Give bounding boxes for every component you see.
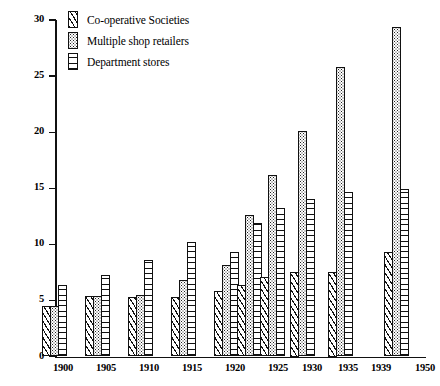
y-tick-label-20: 20 — [14, 125, 44, 136]
bar-department-stores-1915 — [187, 242, 196, 356]
bar-multiple-shop-retailers-1925 — [245, 215, 254, 356]
x-tick-label-1950: 1950 — [402, 362, 440, 373]
bar-co-operative-societies-1915 — [171, 297, 180, 356]
bar-department-stores-1939 — [344, 192, 353, 357]
y-tick-15 — [49, 188, 56, 189]
bar-co-operative-societies-1920 — [214, 291, 223, 356]
bar-multiple-shop-retailers-1935 — [298, 131, 307, 356]
x-tick-label-1915: 1915 — [169, 362, 215, 373]
bar-department-stores-1900 — [58, 285, 67, 357]
bar-department-stores-1935 — [306, 199, 315, 356]
x-tick-label-1900: 1900 — [40, 362, 86, 373]
legend-item-department-stores: Department stores — [68, 51, 189, 72]
y-tick-label-25: 25 — [14, 69, 44, 80]
legend-item-co-operative-societies: Co-operative Societies — [68, 9, 189, 30]
x-tick-label-1920: 1920 — [212, 362, 258, 373]
bar-department-stores-1950 — [400, 189, 409, 356]
bar-multiple-shop-retailers-1930 — [268, 175, 277, 357]
legend-label-co-operative-societies: Co-operative Societies — [87, 14, 189, 26]
bar-multiple-shop-retailers-1900 — [50, 306, 59, 356]
x-axis-line — [55, 357, 426, 359]
legend-swatch-co-operative-societies — [68, 11, 78, 28]
legend-label-department-stores: Department stores — [87, 56, 169, 68]
bar-co-operative-societies-1935 — [290, 272, 299, 356]
chart-legend: Co-operative Societies Multiple shop ret… — [68, 9, 189, 72]
y-tick-25 — [49, 75, 56, 76]
legend-item-multiple-shop-retailers: Multiple shop retailers — [68, 30, 189, 51]
bar-co-operative-societies-1939 — [328, 272, 337, 356]
y-tick-20 — [49, 132, 56, 133]
bar-department-stores-1930 — [276, 208, 285, 356]
legend-swatch-multiple-shop-retailers — [68, 32, 78, 49]
x-tick-label-1910: 1910 — [126, 362, 172, 373]
y-tick-label-0: 0 — [14, 350, 44, 361]
legend-label-multiple-shop-retailers: Multiple shop retailers — [87, 35, 189, 47]
bar-multiple-shop-retailers-1910 — [136, 295, 145, 357]
bar-co-operative-societies-1950 — [384, 252, 393, 356]
x-tick-label-1905: 1905 — [83, 362, 129, 373]
y-tick-10 — [49, 244, 56, 245]
legend-swatch-department-stores — [68, 53, 78, 70]
bar-department-stores-1905 — [101, 275, 110, 357]
y-tick-label-10: 10 — [14, 237, 44, 248]
x-tick-label-1939: 1939 — [358, 362, 404, 373]
bar-multiple-shop-retailers-1939 — [336, 67, 345, 356]
y-tick-5 — [49, 300, 56, 301]
bar-co-operative-societies-1930 — [260, 277, 269, 357]
bar-multiple-shop-retailers-1920 — [222, 265, 231, 357]
bar-department-stores-1910 — [144, 260, 153, 356]
y-tick-30 — [49, 19, 56, 20]
bar-co-operative-societies-1900 — [42, 306, 51, 356]
bar-multiple-shop-retailers-1905 — [93, 296, 102, 357]
bar-co-operative-societies-1905 — [85, 296, 94, 357]
bar-multiple-shop-retailers-1950 — [392, 27, 401, 357]
bar-co-operative-societies-1910 — [128, 297, 137, 356]
y-tick-label-5: 5 — [14, 293, 44, 304]
bar-multiple-shop-retailers-1915 — [179, 280, 188, 356]
y-tick-label-15: 15 — [14, 181, 44, 192]
y-tick-label-30: 30 — [14, 13, 44, 24]
bar-co-operative-societies-1925 — [237, 285, 246, 357]
